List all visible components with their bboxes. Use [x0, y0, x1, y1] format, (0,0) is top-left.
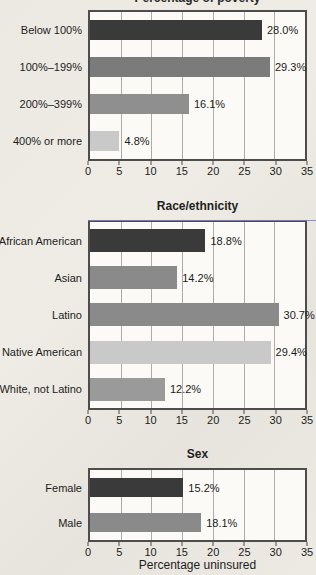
plot-area-sex: Female15.2%Male18.1% — [88, 468, 307, 542]
bar-row: Latino30.7% — [90, 303, 305, 326]
value-label: 14.2% — [182, 272, 213, 284]
tick-label: 30 — [270, 165, 282, 177]
tick-label: 5 — [116, 165, 122, 177]
bar — [90, 94, 189, 114]
x-axis-sex: 05101520253035 — [88, 542, 307, 558]
value-label: 18.1% — [206, 517, 237, 529]
bar-rows: African American18.8%Asian14.2%Latino30.… — [90, 222, 305, 408]
bar-row: Female15.2% — [90, 478, 305, 497]
tick-label: 30 — [270, 414, 282, 426]
bar — [90, 57, 270, 77]
tick-label: 25 — [238, 414, 250, 426]
value-label: 4.8% — [124, 135, 149, 147]
chart-title: Sex — [88, 447, 307, 462]
tick-label: 15 — [176, 546, 188, 558]
tick-label: 10 — [144, 546, 156, 558]
bar — [90, 229, 205, 252]
bar-row: African American18.8% — [90, 229, 305, 252]
bar — [90, 478, 183, 497]
bar — [90, 513, 201, 532]
category-label: Below 100% — [21, 24, 82, 36]
chart-sex: Sex Female15.2%Male18.1% 05101520253035 … — [0, 447, 316, 572]
category-label: African American — [0, 235, 82, 247]
category-label: White, not Latino — [0, 383, 82, 395]
tick-label: 35 — [301, 546, 313, 558]
bar — [90, 131, 119, 151]
bar — [90, 341, 271, 364]
bar — [90, 266, 177, 289]
chart-poverty-level: Percentage of poverty Below 100%28.0%100… — [0, 0, 316, 179]
tick-label: 15 — [176, 414, 188, 426]
bar-row: Male18.1% — [90, 513, 305, 532]
value-label: 15.2% — [188, 482, 219, 494]
value-label: 29.4% — [276, 346, 307, 358]
bar-row: 200%–399%16.1% — [90, 94, 305, 114]
tick-label: 15 — [176, 165, 188, 177]
value-label: 28.0% — [267, 24, 298, 36]
bar-row: Asian14.2% — [90, 266, 305, 289]
bar-row: 100%–199%29.3% — [90, 57, 305, 77]
chart-race-ethnicity: Race/ethnicity African American18.8%Asia… — [0, 199, 316, 428]
tick-label: 10 — [144, 414, 156, 426]
category-label: Female — [45, 482, 82, 494]
value-label: 16.1% — [194, 98, 225, 110]
x-axis-race-ethnicity: 05101520253035 — [88, 410, 307, 428]
value-label: 18.8% — [210, 235, 241, 247]
plot-area-poverty: Below 100%28.0%100%–199%29.3%200%–399%16… — [88, 10, 307, 161]
chart-title-clipped: Percentage of poverty — [88, 0, 307, 6]
tick-label: 20 — [207, 414, 219, 426]
bar-row: 400% or more4.8% — [90, 131, 305, 151]
plot-area-race-ethnicity: African American18.8%Asian14.2%Latino30.… — [88, 220, 307, 410]
bar-row: Below 100%28.0% — [90, 20, 305, 40]
tick-label: 35 — [301, 414, 313, 426]
bar — [90, 20, 262, 40]
value-label: 29.3% — [275, 61, 306, 73]
tick-label: 5 — [116, 414, 122, 426]
x-axis-label: Percentage uninsured — [88, 558, 307, 572]
bar-row: White, not Latino12.2% — [90, 378, 305, 401]
bar-rows: Below 100%28.0%100%–199%29.3%200%–399%16… — [90, 12, 305, 159]
x-axis-poverty: 05101520253035 — [88, 161, 307, 179]
tick-label: 20 — [207, 546, 219, 558]
category-label: 400% or more — [13, 135, 82, 147]
category-label: 100%–199% — [20, 61, 82, 73]
category-label: Native American — [2, 346, 82, 358]
chart-title: Race/ethnicity — [88, 199, 307, 214]
tick-label: 5 — [116, 546, 122, 558]
tick-label: 35 — [301, 165, 313, 177]
scan-artifact-line — [88, 220, 316, 221]
bar — [90, 303, 279, 326]
bar-rows: Female15.2%Male18.1% — [90, 470, 305, 540]
value-label: 30.7% — [284, 309, 315, 321]
tick-label: 20 — [207, 165, 219, 177]
bar — [90, 378, 165, 401]
bar-row: Native American29.4% — [90, 341, 305, 364]
value-label: 12.2% — [170, 383, 201, 395]
tick-label: 30 — [270, 546, 282, 558]
chart-title-text: Percentage of poverty — [88, 0, 307, 5]
tick-label: 25 — [238, 546, 250, 558]
tick-label: 0 — [85, 414, 91, 426]
tick-label: 25 — [238, 165, 250, 177]
category-label: Male — [58, 517, 82, 529]
category-label: 200%–399% — [20, 98, 82, 110]
tick-label: 10 — [144, 165, 156, 177]
category-label: Latino — [52, 309, 82, 321]
tick-label: 0 — [85, 165, 91, 177]
tick-label: 0 — [85, 546, 91, 558]
category-label: Asian — [54, 272, 82, 284]
figure-uninsured-bar-charts: Percentage of poverty Below 100%28.0%100… — [0, 0, 316, 575]
